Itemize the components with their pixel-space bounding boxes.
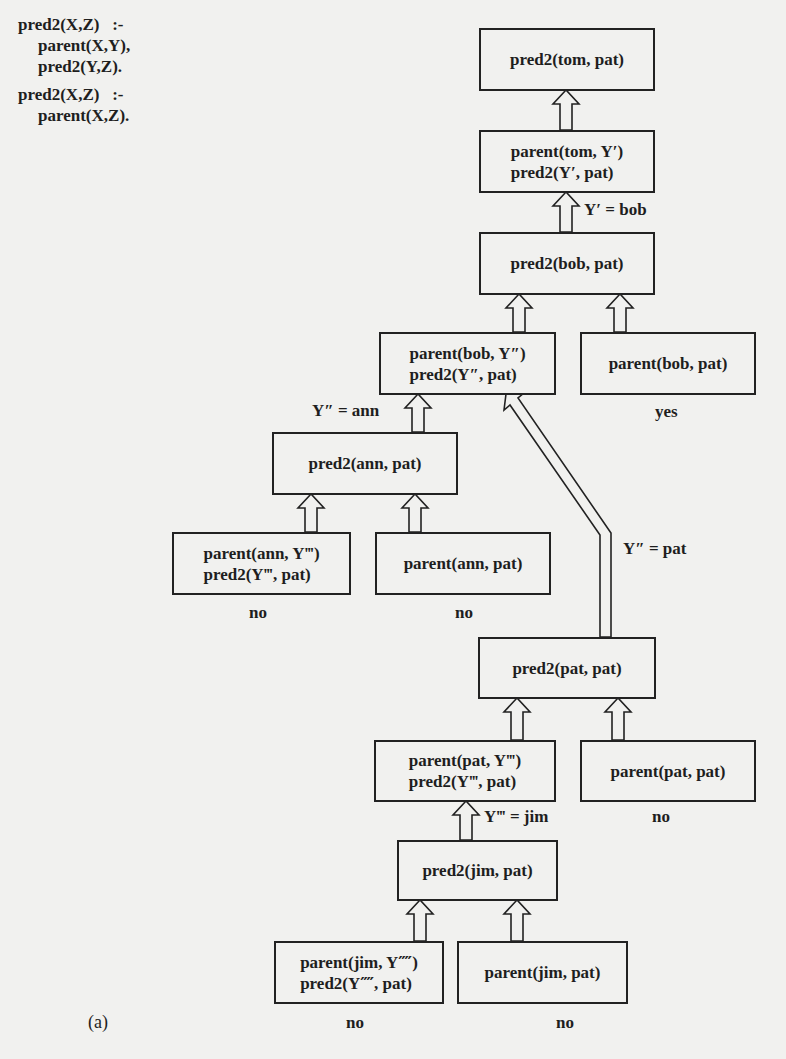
binding-label-y2-pat: Y″ = pat: [623, 539, 686, 559]
arrow-n11-n9: [605, 698, 631, 740]
goal-text: parent(bob, Y″): [409, 343, 525, 364]
binding-label-y3-jim: Y‴ = jim: [484, 807, 548, 827]
arrow-n2-n1: [553, 90, 579, 130]
arrow-n10-n9: [504, 698, 530, 740]
goal-text: parent(ann, pat): [404, 553, 523, 574]
arrow-n4-n3: [506, 294, 532, 332]
goal-text: pred2(Y′, pat): [511, 162, 614, 183]
result-no: no: [455, 603, 473, 623]
goal-text: pred2(tom, pat): [510, 49, 624, 70]
arrow-n3-n2: [553, 192, 579, 232]
binding-label-y1-bob: Y′ = bob: [584, 200, 647, 220]
result-no: no: [556, 1013, 574, 1033]
arrow-n7-n6: [298, 494, 324, 532]
arrow-n12-n10: [453, 801, 479, 840]
goal-text: pred2(Y″, pat): [409, 364, 516, 385]
goal-text: parent(jim, pat): [485, 962, 601, 983]
derivation-arrows: [0, 0, 786, 1059]
goal-text: pred2(Y‴, pat): [409, 771, 516, 792]
goal-node-pred2-pat-pat: pred2(pat, pat): [478, 637, 656, 699]
arrow-n14-n12: [504, 900, 530, 941]
goal-text: parent(tom, Y′): [511, 141, 623, 162]
goal-node-parent-jim-pat: parent(jim, pat): [457, 941, 628, 1004]
arrow-n5-n3: [607, 294, 633, 332]
result-yes: yes: [655, 402, 678, 422]
goal-node-parent-ann-pat: parent(ann, pat): [375, 532, 551, 595]
goal-node-parent-ann-y3: parent(ann, Y‴) pred2(Y‴, pat): [172, 532, 351, 595]
goal-node-parent-pat-y3: parent(pat, Y‴) pred2(Y‴, pat): [374, 740, 556, 802]
goal-text: parent(bob, pat): [609, 353, 728, 374]
goal-node-pred2-bob-pat: pred2(bob, pat): [479, 232, 655, 295]
goal-text: pred2(ann, pat): [308, 453, 421, 474]
goal-text: pred2(pat, pat): [512, 658, 621, 679]
goal-text: parent(ann, Y‴): [203, 543, 319, 564]
goal-node-parent-tom-y1: parent(tom, Y′) pred2(Y′, pat): [479, 130, 655, 193]
arrow-n8-n6: [402, 494, 428, 532]
goal-node-pred2-ann-pat: pred2(ann, pat): [272, 432, 458, 495]
result-no: no: [249, 603, 267, 623]
goal-text: pred2(Y‴, pat): [203, 564, 310, 585]
goal-text: parent(pat, Y‴): [409, 750, 521, 771]
goal-node-pred2-jim-pat: pred2(jim, pat): [397, 840, 558, 901]
arrow-n9-n4: [504, 393, 611, 637]
goal-node-parent-jim-y4: parent(jim, Y⁗) pred2(Y⁗, pat): [274, 941, 444, 1004]
result-no: no: [346, 1013, 364, 1033]
arrow-n13-n12: [407, 900, 433, 941]
goal-node-parent-bob-y2: parent(bob, Y″) pred2(Y″, pat): [379, 332, 556, 395]
goal-text: pred2(Y⁗, pat): [300, 973, 412, 994]
goal-node-parent-pat-pat: parent(pat, pat): [580, 740, 756, 802]
goal-text: parent(jim, Y⁗): [300, 952, 418, 973]
goal-text: pred2(bob, pat): [510, 253, 623, 274]
arrow-n6-n4: [405, 394, 431, 432]
figure-caption: (a): [88, 1012, 108, 1033]
goal-text: pred2(jim, pat): [422, 860, 532, 881]
goal-node-pred2-tom-pat: pred2(tom, pat): [479, 28, 655, 91]
goal-text: parent(pat, pat): [611, 761, 726, 782]
binding-label-y2-ann: Y″ = ann: [312, 401, 379, 421]
goal-node-parent-bob-pat: parent(bob, pat): [580, 332, 756, 395]
result-no: no: [652, 807, 670, 827]
